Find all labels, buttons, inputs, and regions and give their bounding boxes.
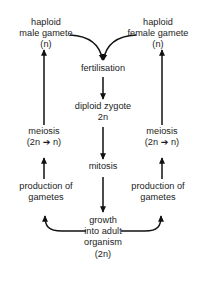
node-line: mitosis bbox=[70, 161, 136, 172]
node-haploid-male-gamete: haploid male gamete (n) bbox=[0, 17, 92, 51]
node-haploid-female-gamete: haploid female gamete (n) bbox=[113, 17, 203, 51]
node-meiosis-right: meiosis (2n ➔ n) bbox=[122, 126, 202, 148]
node-growth-into-adult-organism: growth into adult organism (2n) bbox=[58, 215, 148, 260]
node-line: (2n ➔ n) bbox=[122, 137, 202, 148]
node-line: (n) bbox=[0, 39, 92, 50]
node-line: female gamete bbox=[113, 28, 203, 39]
node-line: haploid bbox=[0, 17, 92, 28]
node-line: production of bbox=[0, 181, 92, 192]
node-diploid-zygote: diploid zygote 2n bbox=[58, 101, 148, 123]
node-line: male gamete bbox=[0, 28, 92, 39]
node-line: 2n bbox=[58, 112, 148, 123]
node-line: (2n ➔ n) bbox=[4, 137, 84, 148]
node-mitosis: mitosis bbox=[70, 161, 136, 172]
node-line: (n) bbox=[113, 39, 203, 50]
node-line: growth bbox=[58, 215, 148, 226]
node-line: haploid bbox=[113, 17, 203, 28]
node-line: into adult bbox=[58, 226, 148, 237]
node-line: (2n) bbox=[58, 249, 148, 260]
node-line: gametes bbox=[112, 192, 203, 203]
node-fertilisation: fertilisation bbox=[60, 63, 146, 74]
node-line: organism bbox=[58, 237, 148, 248]
node-line: meiosis bbox=[4, 126, 84, 137]
node-line: gametes bbox=[0, 192, 92, 203]
node-production-of-gametes-right: production of gametes bbox=[112, 181, 203, 203]
node-line: production of bbox=[112, 181, 203, 192]
node-line: diploid zygote bbox=[58, 101, 148, 112]
node-line: meiosis bbox=[122, 126, 202, 137]
node-line: fertilisation bbox=[60, 63, 146, 74]
node-meiosis-left: meiosis (2n ➔ n) bbox=[4, 126, 84, 148]
node-production-of-gametes-left: production of gametes bbox=[0, 181, 92, 203]
life-cycle-diagram: — —— — —— —— — — —— — —— haploid male ga… bbox=[0, 0, 203, 285]
